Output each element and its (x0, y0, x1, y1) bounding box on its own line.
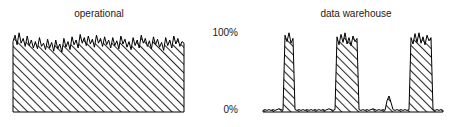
area-series-data-warehouse (263, 33, 443, 112)
chart-data-warehouse (0, 0, 457, 127)
utilization-comparison-figure: operational 100% 0% data warehouse (0, 0, 457, 127)
